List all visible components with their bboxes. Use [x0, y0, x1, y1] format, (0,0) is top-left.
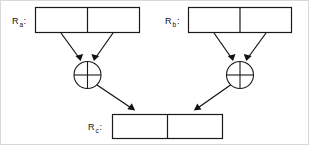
diagram-canvas: R a : R b : [0, 0, 309, 145]
connector-xor-right-to-rc-cell1 [194, 85, 231, 111]
register-ra-label: R [12, 16, 19, 26]
connector-ra-cell0-to-xor-left [61, 33, 83, 61]
arrowhead-icon [194, 103, 202, 110]
connector-rb-cell0-to-xor-right [214, 33, 236, 61]
connector-ra-cell1-to-xor-left [91, 33, 113, 61]
arrowhead-icon [127, 103, 135, 110]
register-rc-colon: : [100, 122, 103, 132]
register-rb-label: R [165, 16, 172, 26]
xor-operator-left[interactable] [74, 62, 101, 89]
register-rc-label: R [88, 122, 95, 132]
register-rb-colon: : [177, 16, 180, 26]
register-xor-diagram: R a : R b : [0, 0, 309, 145]
register-ra-colon: : [24, 16, 27, 26]
connector-xor-left-to-rc-cell0 [97, 85, 135, 111]
register-rb: R b : [165, 8, 292, 33]
register-ra: R a : [12, 8, 140, 33]
xor-operator-right[interactable] [227, 62, 254, 89]
register-rb-subscript: b [173, 21, 177, 28]
connector-rb-cell1-to-xor-right [244, 33, 266, 61]
register-rc: R c : [88, 115, 223, 139]
